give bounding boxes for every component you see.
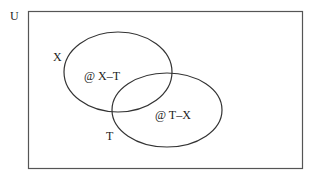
set-t-label: T (106, 129, 114, 143)
region-x-minus-t-label: @ X–T (84, 69, 121, 83)
set-x-label: X (53, 50, 62, 64)
universe-label: U (10, 9, 19, 23)
region-t-minus-x-label: @ T–X (155, 108, 191, 122)
venn-diagram: U X T @ X–T @ T–X (0, 0, 318, 180)
